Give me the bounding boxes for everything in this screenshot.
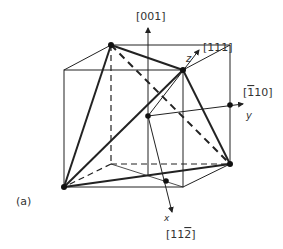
label-z-letter: z (185, 53, 192, 64)
label-111: [111] (203, 41, 233, 54)
label-y-letter: y (245, 110, 253, 121)
tetrahedron-hidden-edge (111, 45, 230, 164)
label-x-letter: x (163, 213, 170, 223)
label-y-direction: [110] (243, 86, 273, 99)
cube-tetrahedron-diagram: [001] z [111] [110] y x [112] (a) (0, 0, 283, 249)
panel-label: (a) (16, 195, 31, 208)
axes (148, 28, 243, 212)
label-001: [001] (136, 10, 166, 23)
label-x-direction: [112] (166, 228, 196, 241)
